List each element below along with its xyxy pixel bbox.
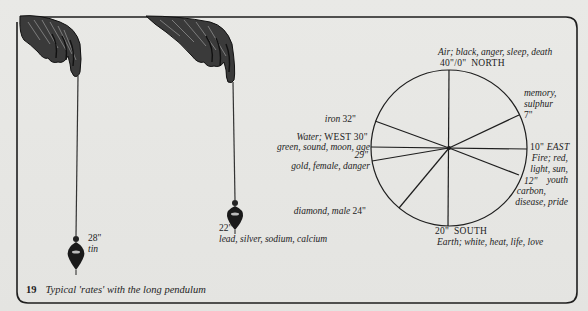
south-label: 20" SOUTH	[435, 226, 487, 237]
pendulum-2-rate: 22"	[219, 223, 327, 234]
figure-caption: 19Typical 'rates' with the long pendulum	[26, 284, 206, 295]
pendulum-1-rate: 28"	[88, 233, 101, 244]
pendulum-1-materials: tin	[88, 244, 101, 255]
north-label: 40"/0" NORTH	[440, 58, 505, 69]
pendulum-2-materials: lead, silver, sodium, calcium	[219, 234, 327, 245]
figure-caption-text: Typical 'rates' with the long pendulum	[46, 284, 206, 295]
pendulum-1-label: 28" tin	[88, 233, 101, 255]
pendulum-string	[233, 82, 235, 200]
figure-number: 19	[26, 284, 37, 295]
pendulum-bob-icon	[68, 236, 85, 275]
spoke-24-label: diamond, male 24"	[294, 206, 366, 217]
spoke-12-label: carbon, disease, pride	[515, 186, 568, 208]
hand-icon	[146, 16, 235, 83]
spoke-7-label: memory, sulphur 7"	[524, 88, 556, 121]
west-attributes: green, sound, moon, age	[277, 142, 370, 153]
spoke-32-label: iron 32"	[325, 114, 356, 125]
hand-icon	[20, 16, 81, 77]
rate-wheel	[371, 70, 527, 226]
pendulum-string	[76, 76, 78, 236]
south-attributes: Earth; white, heat, life, love	[437, 237, 543, 248]
north-attributes: Air; black, anger, sleep, death	[438, 47, 552, 58]
east-label: 10" EAST	[530, 142, 570, 153]
book-page: 28" tin 22" lead, silver, sodium, calciu…	[0, 0, 588, 311]
pendulum-2-label: 22" lead, silver, sodium, calcium	[219, 223, 327, 245]
spoke-29-label: gold, female, danger	[291, 161, 370, 172]
